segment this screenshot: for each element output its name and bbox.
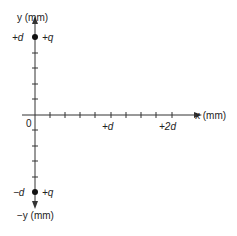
y-pos-d-label: +d: [12, 32, 24, 43]
x-axis-label: x (mm): [195, 110, 226, 121]
y-neg-d-label: −d: [13, 187, 25, 198]
charge-bottom-label: +q: [42, 187, 54, 198]
origin-label: 0: [26, 118, 32, 129]
x-tick-2d-label: +2d: [159, 121, 176, 132]
neg-y-axis-label: −y (mm): [17, 210, 54, 221]
charge-bottom: [32, 189, 38, 195]
charge-top-label: +q: [42, 32, 54, 43]
x-tick-d-label: +d: [102, 121, 114, 132]
charge-top: [32, 34, 38, 40]
y-arrow-down-icon: [32, 201, 38, 209]
y-axis-label: y (mm): [17, 12, 48, 23]
charge-diagram: y (mm) +d +q 0 +d +2d x (mm) −d +q −y (m…: [0, 0, 237, 236]
